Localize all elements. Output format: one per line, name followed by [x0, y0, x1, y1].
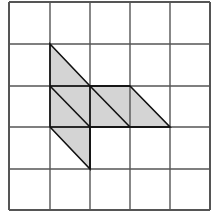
grid-diagram	[0, 0, 212, 219]
